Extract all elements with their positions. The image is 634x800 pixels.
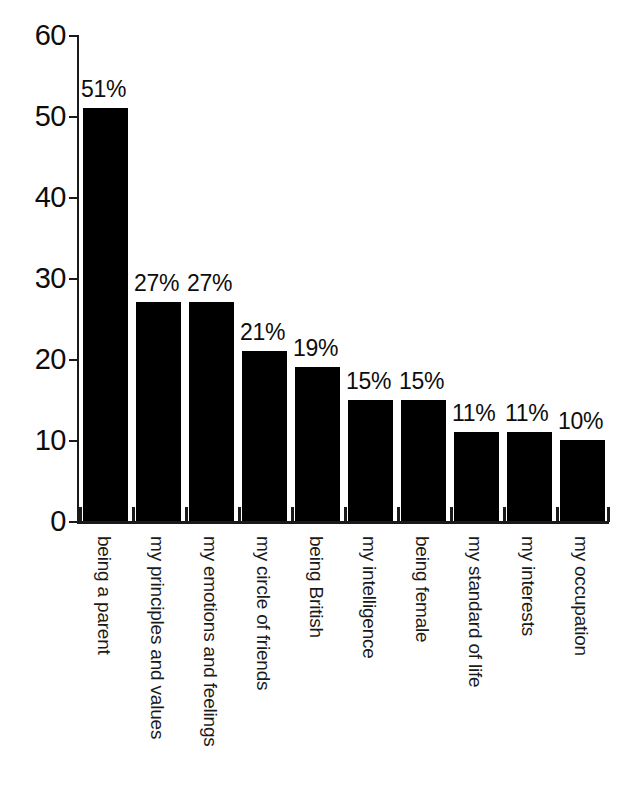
x-axis-tick: [238, 507, 241, 522]
x-axis-tick: [185, 507, 188, 522]
bar: [83, 108, 128, 521]
bar: [136, 302, 181, 521]
x-axis-tick: [344, 507, 347, 522]
bar: [348, 400, 393, 522]
x-axis-category-label: my standard of life: [466, 536, 485, 687]
x-axis-category-label: my interests: [519, 536, 538, 636]
x-axis-category-label: my emotions and feelings: [201, 536, 220, 747]
x-axis-tick: [79, 507, 82, 522]
bar-value-label: 15%: [346, 370, 391, 393]
bar-chart: 60 50 40 30 20 10 0 51%being a parent27%…: [0, 0, 634, 800]
x-axis-tick: [291, 507, 294, 522]
x-axis-category-label: being female: [413, 536, 432, 642]
x-axis-category-label: being British: [307, 536, 326, 638]
x-axis-tick: [503, 507, 506, 522]
x-axis-category-label: my intelligence: [360, 536, 379, 659]
bar-value-label: 15%: [399, 370, 444, 393]
bar: [401, 400, 446, 522]
x-axis-tick: [450, 507, 453, 522]
bar: [560, 440, 605, 521]
bar-value-label: 51%: [81, 78, 126, 101]
x-axis-tick: [397, 507, 400, 522]
bar-value-label: 27%: [134, 272, 179, 295]
bar: [242, 351, 287, 521]
bar-value-label: 27%: [187, 272, 232, 295]
bar-value-label: 10%: [558, 410, 603, 433]
bar: [189, 302, 234, 521]
x-axis-category-label: my principles and values: [148, 536, 167, 739]
bar: [454, 432, 499, 521]
x-axis-category-label: my occupation: [572, 536, 591, 656]
bar: [507, 432, 552, 521]
x-axis-category-label: being a parent: [95, 536, 114, 655]
bar-value-label: 11%: [505, 402, 548, 425]
bar-value-label: 11%: [452, 402, 495, 425]
bar: [295, 367, 340, 521]
bar-value-label: 21%: [240, 321, 285, 344]
x-axis-tick: [556, 507, 559, 522]
plot-area: 51%being a parent27%my principles and va…: [0, 0, 634, 800]
x-axis-tick: [132, 507, 135, 522]
bar-value-label: 19%: [293, 337, 338, 360]
x-axis-tick-end: [607, 507, 610, 522]
x-axis-category-label: my circle of friends: [254, 536, 273, 690]
